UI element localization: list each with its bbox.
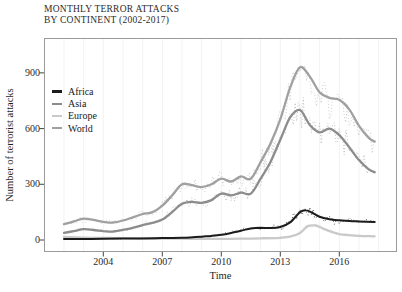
trend-series-africa <box>64 210 375 239</box>
legend-label: Africa <box>68 86 94 97</box>
legend-swatch-icon <box>52 115 62 117</box>
legend: AfricaAsiaEuropeWorld <box>52 85 97 135</box>
trend-series-world <box>64 67 375 224</box>
legend-label: Asia <box>68 98 86 109</box>
chart-title: MONTHLY TERROR ATTACKS BY CONTINENT (200… <box>44 4 179 25</box>
x-tick-label: 2016 <box>323 256 355 267</box>
chart-title-line-2: BY CONTINENT (2002-2017) <box>44 15 179 26</box>
x-tick-label: 2004 <box>87 256 119 267</box>
chart-title-line-1: MONTHLY TERROR ATTACKS <box>44 4 179 15</box>
x-tick-label: 2007 <box>146 256 178 267</box>
y-axis-title: Number of terrorist attacks <box>4 38 15 252</box>
legend-item-africa: Africa <box>52 85 97 97</box>
legend-swatch-icon <box>52 103 62 105</box>
x-axis-title: Time <box>44 270 397 281</box>
raw-series-world <box>64 65 374 224</box>
terror-attacks-chart: MONTHLY TERROR ATTACKS BY CONTINENT (200… <box>0 0 402 292</box>
legend-label: World <box>68 123 93 134</box>
x-tick-label: 2013 <box>264 256 296 267</box>
legend-swatch-icon <box>52 90 62 93</box>
trend-series-asia <box>64 110 375 233</box>
x-tick-label: 2010 <box>205 256 237 267</box>
raw-series-asia <box>64 97 374 233</box>
legend-item-world: World <box>52 122 97 134</box>
data-layer <box>64 65 375 239</box>
legend-label: Europe <box>68 110 97 121</box>
plot-area <box>44 38 397 252</box>
legend-swatch-icon <box>52 127 62 129</box>
legend-item-asia: Asia <box>52 97 97 109</box>
legend-item-europe: Europe <box>52 110 97 122</box>
